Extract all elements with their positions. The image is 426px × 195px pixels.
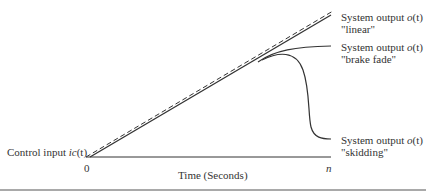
label-text: Control input (7, 146, 69, 158)
label-text: System output (341, 134, 407, 146)
control-input-label: Control input ic(t) (7, 146, 87, 158)
mode-text: "skidding" (341, 146, 388, 158)
output-brake-fade-label: System output o(t) "brake fade" (341, 41, 423, 65)
mode-text: "linear" (341, 23, 375, 35)
label-arg: (t) (413, 134, 423, 146)
output-linear-line (90, 15, 331, 157)
mode-text: "brake fade" (341, 53, 396, 65)
output-skidding-label: System output o(t) "skidding" (341, 134, 423, 158)
label-text: System output (341, 41, 407, 53)
output-skidding-curve (262, 54, 331, 139)
output-linear-label: System output o(t) "linear" (341, 11, 423, 35)
control-input-line (86, 11, 333, 157)
label-arg: (t) (77, 146, 87, 158)
x-axis-label: Time (Seconds) (178, 169, 248, 181)
label-text: System output (341, 11, 407, 23)
axis-start-tick: 0 (84, 162, 90, 174)
label-var: ic (69, 146, 77, 158)
label-arg: (t) (413, 41, 423, 53)
axis-end-tick: n (326, 162, 332, 174)
label-arg: (t) (413, 11, 423, 23)
